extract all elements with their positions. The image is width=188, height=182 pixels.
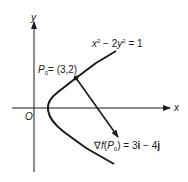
point-coords: = (3,2) — [48, 64, 77, 75]
origin-label: O — [25, 112, 33, 122]
grad-minus-four: − 4 — [140, 140, 157, 151]
grad-p: P — [107, 140, 114, 151]
gradient-label: ∇f(P0) = 3i − 4j — [94, 141, 160, 152]
hyperbola-gradient-diagram — [0, 0, 188, 182]
point-name: P — [38, 64, 45, 75]
grad-j-vector: j — [157, 140, 160, 151]
grad-equals-three: = 3 — [120, 140, 137, 151]
curve-equation-label: x2 − 2y2 = 1 — [92, 38, 143, 49]
point-p0-dot — [74, 76, 79, 81]
nabla-icon: ∇ — [94, 140, 101, 151]
x-axis-label: x — [174, 103, 179, 113]
y-axis-label: y — [31, 13, 36, 23]
eq-minus-two: − 2 — [100, 38, 117, 49]
point-p0-label: P0= (3,2) — [38, 65, 77, 76]
eq-equals-one: = 1 — [126, 38, 143, 49]
